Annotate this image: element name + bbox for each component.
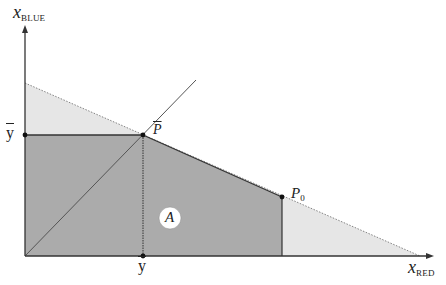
point-pbar xyxy=(141,133,146,138)
ybar-left-label: y xyxy=(6,124,14,142)
y-axis-label-main: x xyxy=(13,2,21,22)
p0-label-sub: 0 xyxy=(300,193,305,203)
ybar-bottom-label: y xyxy=(138,257,146,275)
p0-label-main: P xyxy=(291,185,300,201)
x-axis-label: xRED xyxy=(408,257,435,278)
dark-region-a xyxy=(25,135,282,256)
p0-label: P0 xyxy=(291,185,305,203)
y-axis-label: xBLUE xyxy=(13,2,45,23)
region-a-label: A xyxy=(165,209,174,226)
y-axis-arrow-icon xyxy=(22,25,28,33)
point-p0 xyxy=(280,195,285,200)
point-ybar-left xyxy=(23,133,28,138)
diagram-canvas xyxy=(0,0,446,285)
x-axis-label-sub: RED xyxy=(416,268,435,278)
x-axis-label-main: x xyxy=(408,257,416,277)
pbar-label: P xyxy=(153,122,162,138)
y-axis-label-sub: BLUE xyxy=(21,13,45,23)
